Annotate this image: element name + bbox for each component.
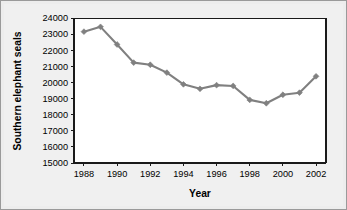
y-tick-label-group: 1500016000170001800019000200002100022000…	[42, 13, 68, 168]
y-tick-label: 24000	[42, 13, 68, 23]
y-tick-label: 16000	[42, 142, 68, 152]
y-tick-label: 19000	[42, 94, 68, 104]
chart-figure: 1500016000170001800019000200002100022000…	[0, 0, 347, 210]
y-tick-label: 20000	[42, 78, 68, 88]
x-tick-label: 1996	[206, 169, 226, 179]
x-tick-label: 1998	[240, 169, 260, 179]
x-tick-label: 1990	[107, 169, 127, 179]
y-tick-label: 17000	[42, 126, 68, 136]
y-tick-label: 22000	[42, 46, 68, 56]
x-tick-label: 1992	[140, 169, 160, 179]
x-tick-label-group: 19881990199219941996199820002002	[74, 169, 327, 179]
x-tick-label: 1988	[74, 169, 94, 179]
line-chart: 1500016000170001800019000200002100022000…	[1, 1, 347, 210]
y-tick-label: 18000	[42, 110, 68, 120]
y-tick-label: 15000	[42, 158, 68, 168]
x-tick-label: 1994	[173, 169, 193, 179]
y-tick-label: 21000	[42, 62, 68, 72]
x-tick-label: 2000	[273, 169, 293, 179]
x-tick-label: 2002	[306, 169, 326, 179]
x-axis-title: Year	[189, 188, 211, 199]
y-axis-title: Southern elephant seals	[12, 31, 23, 150]
y-tick-label: 23000	[42, 29, 68, 39]
